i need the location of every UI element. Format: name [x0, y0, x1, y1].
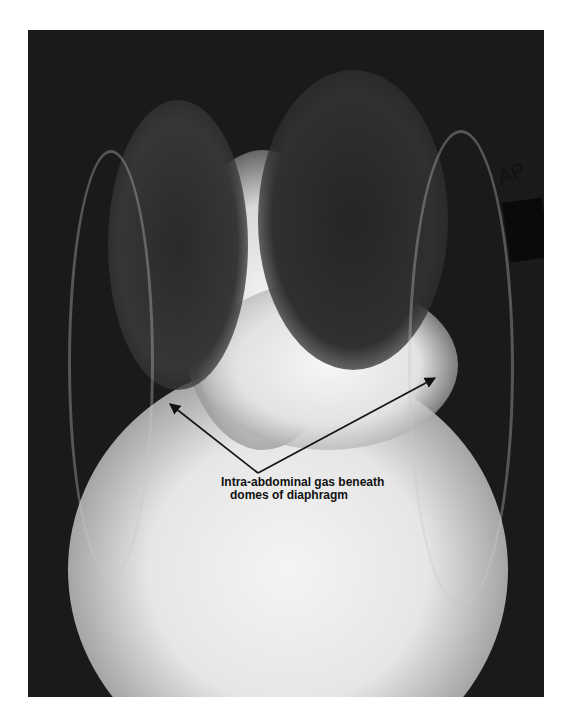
arrow-to-left-hemidiaphragm [258, 378, 435, 473]
arrow-to-right-hemidiaphragm [170, 404, 258, 473]
annotation-arrows [0, 0, 571, 721]
annotation-label: Intra-abdominal gas beneath domes of dia… [221, 476, 384, 502]
annotation-line-2: domes of diaphragm [221, 489, 384, 502]
